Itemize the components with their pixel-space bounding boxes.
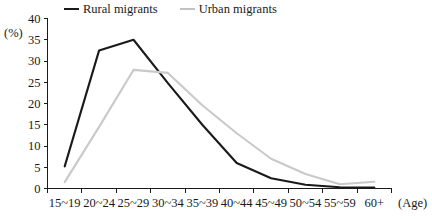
x-axis-tick-label: 15~19 (49, 196, 81, 210)
series-line-urban (65, 70, 375, 184)
y-axis: 0510152025303540 (28, 12, 48, 196)
chart-page: Rural migrants Urban migrants (%) 051015… (0, 0, 432, 219)
y-axis-tick-label: 35 (28, 33, 41, 47)
x-axis-tick-label: 60+ (365, 196, 385, 210)
x-axis-tick-label: 45~49 (255, 196, 287, 210)
y-axis-tick-label: 15 (28, 118, 41, 132)
x-axis-tick-label: 20~24 (83, 196, 116, 210)
x-axis: 15~1920~2425~2930~3435~3940~4445~4950~54… (48, 189, 392, 210)
x-axis-tick-label: 50~54 (290, 196, 323, 210)
x-axis-caption: (Age) (398, 196, 427, 210)
x-axis-tick-label: 35~39 (186, 196, 218, 210)
y-axis-tick-label: 10 (28, 139, 41, 153)
y-axis-tick-label: 25 (28, 76, 41, 90)
series-line-rural (65, 40, 375, 188)
y-axis-tick-label: 20 (28, 97, 41, 111)
plot-area: 0510152025303540 15~1920~2425~2930~3435~… (0, 0, 432, 219)
x-axis-tick-label: 55~59 (324, 196, 356, 210)
x-axis-tick-label: 40~44 (221, 196, 254, 210)
series-lines (65, 40, 375, 188)
y-axis-tick-label: 30 (28, 54, 41, 68)
y-axis-tick-label: 0 (34, 182, 40, 196)
x-axis-tick-label: 30~34 (152, 196, 185, 210)
y-axis-tick-label: 5 (34, 161, 40, 175)
chart-svg: 0510152025303540 15~1920~2425~2930~3435~… (0, 0, 432, 219)
x-axis-tick-label: 25~29 (118, 196, 150, 210)
y-axis-tick-label: 40 (28, 12, 41, 26)
